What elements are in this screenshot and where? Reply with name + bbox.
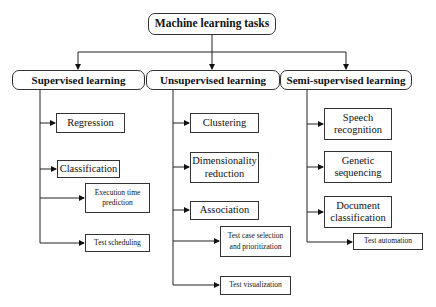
root-label: Machine learning tasks — [155, 17, 269, 30]
node-label: Test visualization — [229, 280, 282, 290]
node-execution-time-prediction: Execution time prediction — [85, 183, 150, 213]
node-regression: Regression — [56, 113, 125, 133]
node-test-automation: Test automation — [353, 233, 423, 250]
node-label: Execution time — [95, 188, 141, 198]
node-label-line2: recognition — [334, 124, 382, 136]
node-label: Supervised learning — [32, 74, 126, 87]
node-label: Clustering — [203, 117, 247, 129]
node-label: Test case selection — [228, 231, 284, 241]
node-test-case-selection: Test case selection and prioritization — [220, 226, 291, 257]
node-clustering: Clustering — [190, 113, 259, 133]
node-label-line2: prediction — [102, 198, 132, 208]
node-genetic-sequencing: Genetic sequencing — [324, 151, 392, 183]
node-supervised-learning: Supervised learning — [12, 70, 145, 90]
node-label-line2: reduction — [205, 168, 245, 180]
node-label: Document — [336, 200, 380, 212]
node-label: Genetic — [342, 155, 375, 167]
node-label: Semi-supervised learning — [287, 74, 406, 87]
node-test-scheduling: Test scheduling — [85, 234, 150, 252]
node-label: Test automation — [364, 236, 412, 246]
node-label: Test scheduling — [94, 238, 141, 248]
node-association: Association — [190, 201, 259, 220]
node-classification: Classification — [57, 160, 120, 178]
node-document-classification: Document classification — [324, 196, 392, 228]
node-semi-supervised-learning: Semi-supervised learning — [280, 70, 412, 90]
node-label-line2: sequencing — [334, 167, 381, 179]
node-label: Unsupervised learning — [160, 74, 266, 87]
node-label-line2: classification — [330, 212, 385, 224]
node-unsupervised-learning: Unsupervised learning — [146, 70, 280, 90]
node-label: Speech — [343, 112, 373, 124]
node-test-visualization: Test visualization — [220, 276, 291, 295]
node-speech-recognition: Speech recognition — [324, 108, 392, 140]
node-label: Regression — [67, 117, 114, 129]
node-label: Classification — [60, 163, 118, 175]
node-label-line2: and prioritization — [230, 242, 282, 252]
node-dimensionality-reduction: Dimensionality reduction — [190, 152, 259, 183]
node-label: Association — [200, 204, 250, 216]
root-node: Machine learning tasks — [148, 13, 276, 35]
node-label: Dimensionality — [192, 155, 257, 167]
